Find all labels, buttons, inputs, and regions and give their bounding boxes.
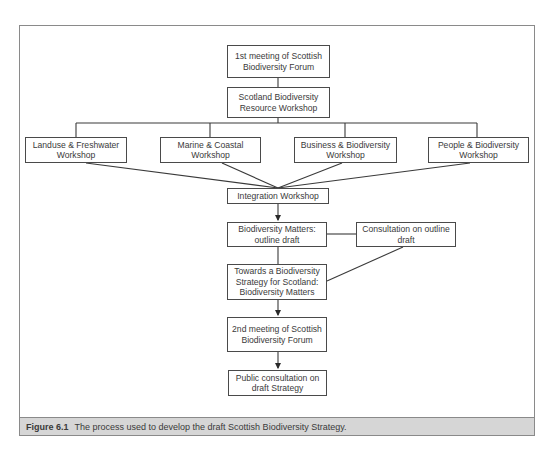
- node-outline-draft: Biodiversity Matters: outline draft: [227, 222, 327, 247]
- node-first-forum-meeting: 1st meeting of Scottish Biodiversity For…: [227, 45, 330, 78]
- node-business-workshop: Business & Biodiversity Workshop: [294, 137, 397, 163]
- node-resource-workshop: Scotland Biodiversity Resource Workshop: [227, 87, 330, 118]
- node-people-workshop: People & Biodiversity Workshop: [428, 137, 529, 163]
- node-consultation-outline: Consultation on outline draft: [356, 222, 456, 247]
- node-integration-workshop: Integration Workshop: [227, 188, 329, 204]
- node-landuse-workshop: Landuse & Freshwater Workshop: [25, 137, 127, 163]
- caption-label: Figure 6.1: [26, 422, 69, 432]
- node-public-consultation: Public consultation on draft Strategy: [228, 370, 327, 396]
- node-towards-strategy: Towards a Biodiversity Strategy for Scot…: [227, 264, 327, 300]
- node-marine-workshop: Marine & Coastal Workshop: [160, 137, 261, 163]
- figure-caption: Figure 6.1 The process used to develop t…: [19, 417, 535, 436]
- caption-text: The process used to develop the draft Sc…: [75, 422, 347, 432]
- node-second-forum-meeting: 2nd meeting of Scottish Biodiversity For…: [227, 317, 327, 352]
